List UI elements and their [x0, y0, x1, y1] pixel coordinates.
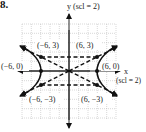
point-label-neg6-0: (−6, 0)	[1, 62, 23, 71]
point-6-3	[95, 55, 99, 59]
point-label-6-neg3: (6, −3)	[81, 95, 103, 104]
point-neg6-0	[39, 69, 43, 73]
x-scale-label: (scl = 2)	[116, 76, 142, 85]
point-neg6-3	[39, 55, 43, 59]
hyperbola-graph: y (scl = 2) (−6, 3) (6, 3) (−6, 0) (6, 0…	[0, 0, 146, 132]
point-6-0	[95, 69, 99, 73]
right-branch-lower	[97, 71, 117, 96]
point-label-6-0: (6, 0)	[102, 62, 120, 71]
point-6-neg3	[95, 83, 99, 87]
point-label-neg6-neg3: (−6, −3)	[29, 95, 56, 104]
point-label-6-3: (6, 3)	[76, 41, 94, 50]
point-label-neg6-3: (−6, 3)	[37, 41, 59, 50]
y-axis-label: y (scl = 2)	[67, 2, 100, 11]
left-branch-lower	[20, 71, 41, 96]
point-neg6-neg3	[39, 83, 43, 87]
x-axis-label: x	[124, 67, 128, 76]
